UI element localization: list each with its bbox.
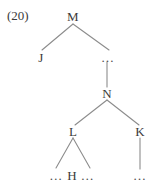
tree-node-m: M (67, 10, 79, 23)
leaf-left-ellipsis: … (49, 168, 63, 183)
tree-node-ellipsis-under-k: … (133, 169, 147, 182)
tree-node-n: N (102, 87, 112, 100)
syntax-tree-figure: (20) M J … N L K … …H… (0, 0, 155, 182)
tree-node-ellipsis-top: … (101, 51, 115, 64)
tree-leaf-row: …H… (49, 169, 94, 182)
tree-node-l: L (69, 125, 77, 138)
tree-branch-lines (0, 0, 155, 182)
tree-node-j: J (38, 51, 43, 64)
leaf-right-ellipsis: … (81, 168, 95, 183)
leaf-head-h: H (67, 168, 76, 183)
tree-node-k: K (135, 125, 145, 138)
